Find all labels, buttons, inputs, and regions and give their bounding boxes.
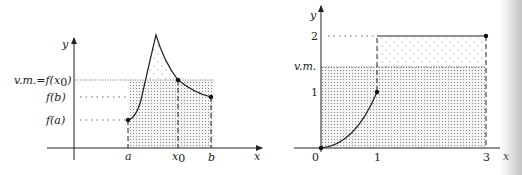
y-tick-1: 1 (311, 86, 318, 99)
tick-b: b (208, 151, 215, 164)
left-chart: y x a x0 b v.m.=f(x0) f(b) f(a) (14, 35, 262, 165)
point-b (209, 95, 213, 99)
tick-3: 3 (483, 151, 490, 164)
label-fa: f(a) (45, 114, 65, 127)
tick-1: 1 (374, 151, 381, 164)
figure: y x a x0 b v.m.=f(x0) f(b) f(a) y x 0 (0, 0, 522, 175)
tick-a: a (125, 150, 132, 163)
tick-0: 0 (312, 151, 319, 164)
label-fb: f(b) (45, 91, 66, 104)
y-tick-2: 2 (311, 30, 318, 43)
label-vm-left: v.m.=f(x0) (14, 74, 71, 89)
point-origin (319, 146, 323, 150)
point-3-2 (484, 34, 488, 38)
point-1-1 (375, 90, 379, 94)
point-a (126, 118, 130, 122)
tick-x0: x0 (172, 150, 185, 165)
y-axis-label-right: y (309, 9, 317, 22)
x-axis-label-left: x (254, 150, 261, 163)
page-edge-shadow (500, 0, 522, 175)
y-axis-label-left: y (61, 38, 69, 51)
right-chart: y x 0 1 3 2 v.m. 1 (294, 6, 510, 164)
mean-value-rectangle-right (321, 67, 486, 148)
point-x0 (176, 78, 180, 82)
mean-value-rectangle-left (128, 80, 214, 148)
y-tick-vm: v.m. (294, 60, 316, 73)
area-above-mean-right (377, 38, 486, 67)
